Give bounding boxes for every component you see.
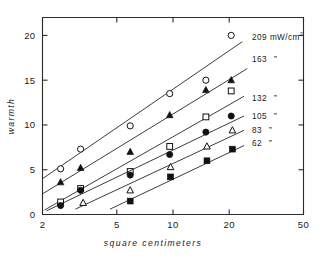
data-point (127, 148, 134, 154)
legend-label: 105” (252, 112, 277, 121)
data-point (203, 77, 209, 83)
data-point (78, 187, 84, 193)
x-tick-label: 20 (224, 219, 235, 230)
x-tick-label: 10 (167, 219, 178, 230)
data-point (80, 199, 87, 205)
data-point (127, 198, 133, 204)
data-point (229, 127, 236, 133)
data-point (167, 91, 173, 97)
y-tick-label: 10 (24, 119, 35, 130)
x-tick-label: 50 (298, 219, 309, 230)
legend-entry-163: 163” (252, 55, 277, 64)
data-point (127, 172, 133, 178)
legend: 209mW/cm2163”132”105”83”62” (252, 31, 303, 148)
data-point (167, 144, 173, 150)
series-163 (43, 69, 248, 194)
data-point (168, 174, 174, 180)
figure-container: 2510205005101520square centimeterswarmth… (0, 0, 322, 265)
y-tick-label: 5 (30, 164, 36, 175)
y-tick-label: 15 (24, 75, 35, 86)
legend-entry-132: 132” (252, 94, 277, 103)
data-point (228, 113, 234, 119)
scatter-plot: 2510205005101520square centimeterswarmth… (0, 0, 322, 265)
y-tick-label: 0 (30, 209, 36, 220)
trend-line (75, 130, 244, 209)
data-point (57, 166, 63, 172)
legend-entry-209: 209mW/cm2 (252, 31, 303, 42)
data-point (203, 86, 210, 92)
data-point (167, 151, 173, 157)
legend-label: 209mW/cm2 (252, 31, 303, 42)
series-105 (46, 113, 244, 211)
legend-label: 132” (252, 94, 277, 103)
data-point (203, 114, 209, 120)
data-point (78, 146, 84, 152)
data-series-layer (43, 32, 248, 211)
series-209 (43, 32, 243, 178)
data-point (77, 164, 84, 170)
legend-entry-83: 83” (252, 126, 272, 135)
data-point (228, 88, 234, 94)
legend-label: 83” (252, 126, 272, 135)
legend-entry-62: 62” (252, 139, 272, 148)
data-point (127, 187, 134, 193)
data-point (167, 163, 174, 169)
legend-label: 163” (252, 55, 277, 64)
x-axis-title: square centimeters (104, 238, 202, 248)
series-132 (45, 88, 244, 210)
data-point (229, 146, 235, 152)
data-point (228, 32, 234, 38)
data-point (127, 123, 133, 129)
legend-label: 62” (252, 139, 272, 148)
x-tick-label: 2 (40, 219, 46, 230)
trend-line (46, 116, 244, 211)
data-point (203, 129, 209, 135)
y-axis-title: warmth (6, 98, 16, 135)
data-point (204, 143, 211, 149)
x-tick-label: 5 (114, 219, 120, 230)
trend-line (43, 42, 243, 179)
y-tick-label: 20 (24, 30, 35, 41)
data-point (57, 202, 63, 208)
data-point (204, 158, 210, 164)
trend-line (43, 69, 248, 194)
legend-entry-105: 105” (252, 112, 277, 121)
